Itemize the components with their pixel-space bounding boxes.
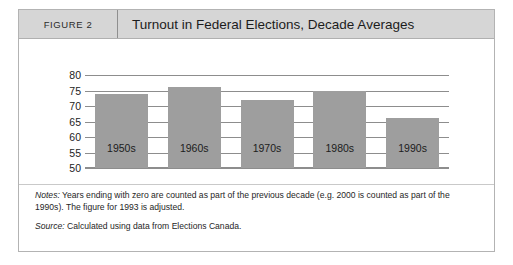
notes-line: Notes: Years ending with zero are counte… <box>35 190 465 213</box>
x-axis-tick-label: 1990s <box>378 142 448 154</box>
x-axis-tick-label: 1980s <box>305 142 375 154</box>
source-text: Calculated using data from Elections Can… <box>65 221 242 231</box>
notes-label: Notes: <box>35 190 60 200</box>
figure-number-label: FIGURE 2 <box>19 19 117 30</box>
chart-plot-area: 50556065707580 1950s1960s1970s1980s1990s <box>19 40 494 188</box>
figure-container: FIGURE 2 Turnout in Federal Elections, D… <box>18 9 495 252</box>
x-axis-tick-label: 1960s <box>159 142 229 154</box>
source-label: Source: <box>35 221 65 231</box>
notes-separator <box>19 184 494 185</box>
x-axis-tick-label: 1970s <box>232 142 302 154</box>
notes-text: Years ending with zero are counted as pa… <box>35 190 450 212</box>
figure-header: FIGURE 2 Turnout in Federal Elections, D… <box>19 10 494 39</box>
x-axis-tick-label: 1950s <box>86 142 156 154</box>
figure-title: Turnout in Federal Elections, Decade Ave… <box>118 17 414 32</box>
source-line: Source: Calculated using data from Elect… <box>35 221 465 233</box>
x-axis: 1950s1960s1970s1980s1990s <box>19 40 494 188</box>
figure-notes: Notes: Years ending with zero are counte… <box>19 190 494 241</box>
